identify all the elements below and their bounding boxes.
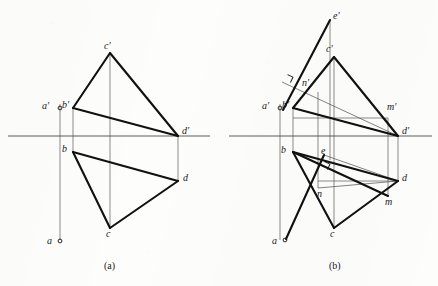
panel-b-label-n-prime: n′: [302, 78, 309, 88]
panel-b-label-b: b: [281, 145, 286, 155]
panel-b-label-a: a: [272, 236, 277, 246]
panel-b-label-c: c: [330, 229, 334, 239]
panel-a-label-b: b: [62, 144, 67, 154]
panel-b-edge-cp-dp: [334, 57, 398, 136]
figure-page: a′b′c′d′abcd(a)a′b′c′d′e′m′n′abcdemn(b): [0, 0, 438, 286]
panel-b-point-a-marker: [283, 238, 287, 242]
panel-a-label-d-prime: d′: [182, 126, 189, 136]
panel-b-label-b-prime: b′: [282, 100, 289, 110]
panel-b-caption: (b): [329, 261, 341, 271]
panel-b-label-d: d: [402, 173, 407, 183]
panel-a-edge-cp-dp: [110, 53, 178, 136]
panel-b-edge-bp-cp: [293, 57, 334, 108]
panel-a-label-a-prime: a′: [42, 101, 49, 111]
panel-a-edge-bp-cp: [73, 53, 110, 108]
panel-a-edge-b-c: [73, 152, 110, 228]
panel-a-label-c: c: [106, 229, 110, 239]
panel-b-label-c-prime: c′: [326, 44, 333, 54]
panel-b-label-a-prime: a′: [262, 101, 269, 111]
panel-b-label-d-prime: d′: [402, 126, 409, 136]
panel-a-edge-bp-dp: [73, 108, 178, 136]
panel-b-label-n: n: [317, 189, 322, 199]
panel-b-label-e: e: [321, 146, 325, 156]
panel-a-label-a: a: [47, 236, 52, 246]
panel-a-caption: (a): [104, 261, 115, 271]
panel-a-edge-b-d: [73, 152, 178, 181]
panel-b-label-m: m: [385, 197, 392, 207]
panel-a-label-c-prime: c′: [104, 41, 111, 51]
panel-b-right-angle-upper-icon: [285, 75, 293, 83]
panel-b-edge-bp-dp: [293, 108, 398, 136]
panel-a-label-b-prime: b′: [62, 100, 69, 110]
panel-b-label-e-prime: e′: [333, 11, 340, 21]
panel-b-label-m-prime: m′: [387, 102, 396, 112]
panel-a-edge-c-d: [110, 181, 178, 228]
panel-a-label-d: d: [183, 173, 188, 183]
panel-b-edge-ep-ap: [283, 20, 330, 110]
